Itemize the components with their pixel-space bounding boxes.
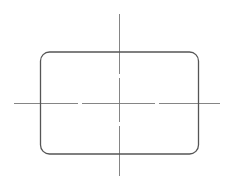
drawing-background — [0, 0, 227, 186]
technical-drawing — [0, 0, 227, 186]
